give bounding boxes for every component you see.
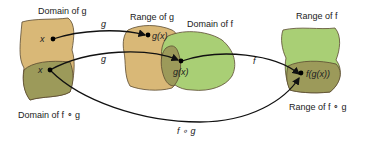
point-x-top — [51, 37, 56, 42]
label-domain-f: Domain of f — [187, 19, 234, 29]
composition-diagram: Domain of g Range of g Domain of f Range… — [0, 0, 374, 145]
point-gx-bottom — [179, 59, 184, 64]
label-range-fog: Range of f ∘ g — [289, 102, 347, 112]
point-fgx — [299, 71, 304, 76]
label-arrow-f: f — [253, 56, 257, 66]
label-x-bottom: x — [37, 65, 43, 75]
domain-fog-region — [23, 61, 73, 100]
point-gx-top — [146, 33, 151, 38]
label-gx-top: g(x) — [152, 31, 168, 41]
label-gx-bottom: g(x) — [173, 67, 189, 77]
point-x-bottom — [48, 68, 53, 73]
label-x-top: x — [39, 34, 45, 44]
label-arrow-g-bottom: g — [101, 54, 106, 64]
label-fgx: f(g(x)) — [306, 69, 330, 79]
label-arrow-fog: f ∘ g — [177, 126, 196, 136]
label-domain-fog: Domain of f ∘ g — [18, 110, 80, 120]
label-range-f: Range of f — [296, 11, 338, 21]
label-range-g: Range of g — [130, 12, 174, 22]
label-domain-g: Domain of g — [38, 6, 87, 16]
label-arrow-g-top: g — [101, 19, 106, 29]
